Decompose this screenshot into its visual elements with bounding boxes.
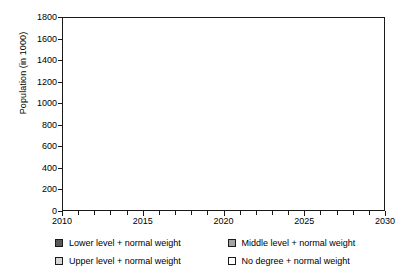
y-axis-tick-label: 800 [42,120,57,130]
x-axis-tick-mark-minor [337,211,338,215]
y-axis-tick-mark [58,17,62,18]
y-axis-tick-mark [58,146,62,147]
legend-item-label: Lower level + normal weight [69,238,181,248]
x-axis-tick-mark-minor [288,211,289,215]
y-axis-tick-label: 1000 [37,98,57,108]
y-axis-tick-label: 1400 [37,55,57,65]
legend-item[interactable]: No degree + normal weight [228,256,401,266]
legend-item[interactable]: Upper level + normal weight [55,256,228,266]
x-axis-tick-label: 2015 [133,216,153,226]
x-axis-tick-label: 2030 [375,216,395,226]
y-axis-tick-label: 1800 [37,12,57,22]
chart-legend: Lower level + normal weightMiddle level … [55,234,400,270]
x-axis-tick-mark-minor [353,211,354,215]
legend-swatch-icon [55,257,63,265]
x-axis-tick-mark-minor [272,211,273,215]
y-axis-tick-mark [58,60,62,61]
legend-item[interactable]: Middle level + normal weight [228,238,401,248]
legend-item-label: Middle level + normal weight [242,238,356,248]
y-axis-tick-mark [58,82,62,83]
legend-item-label: No degree + normal weight [242,256,350,266]
y-axis-tick-mark [58,189,62,190]
y-axis-tick-label: 0 [52,206,57,216]
x-axis-tick-mark-minor [94,211,95,215]
legend-item[interactable]: Lower level + normal weight [55,238,228,248]
y-axis-tick-label: 1200 [37,77,57,87]
x-axis-tick-mark-minor [78,211,79,215]
x-axis-tick-label: 2010 [52,216,72,226]
x-axis-tick-label: 2020 [213,216,233,226]
plot-frame [62,17,385,211]
y-axis-tick-mark [58,39,62,40]
plot-area [62,17,385,211]
x-axis-tick-label: 2025 [294,216,314,226]
y-axis-tick-mark [58,103,62,104]
y-axis-tick-label: 200 [42,184,57,194]
y-axis-tick-mark [58,125,62,126]
legend-swatch-icon [228,239,236,247]
legend-swatch-icon [228,257,236,265]
x-axis-tick-mark-minor [191,211,192,215]
y-axis-tick-mark [58,168,62,169]
y-axis-tick-labels: 020040060080010001200140016001800 [0,17,57,211]
x-axis-tick-mark-minor [127,211,128,215]
x-axis-tick-mark-minor [240,211,241,215]
x-axis-tick-mark-minor [369,211,370,215]
x-axis-tick-mark-minor [320,211,321,215]
y-axis-tick-label: 1600 [37,34,57,44]
x-axis-tick-mark-minor [159,211,160,215]
x-axis-tick-mark-minor [110,211,111,215]
y-axis-tick-label: 600 [42,141,57,151]
y-axis-tick-label: 400 [42,163,57,173]
x-axis-tick-mark-minor [175,211,176,215]
legend-item-label: Upper level + normal weight [69,256,181,266]
x-axis-tick-mark-minor [256,211,257,215]
x-axis-tick-mark-minor [207,211,208,215]
legend-swatch-icon [55,239,63,247]
stacked-area-chart: Population (in 1000) 0200400600800100012… [0,0,409,275]
